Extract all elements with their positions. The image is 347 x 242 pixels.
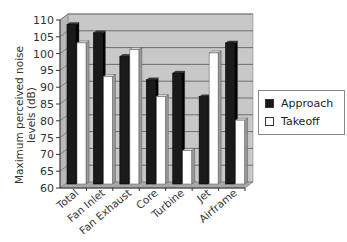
legend-label-approach: Approach <box>281 97 333 110</box>
y-tick-label: 65 <box>40 165 54 178</box>
y-tick-label: 110 <box>33 14 54 27</box>
legend-item-approach: Approach <box>265 97 333 110</box>
legend-item-takeoff: Takeoff <box>265 115 320 128</box>
y-tick-label: 60 <box>40 182 54 195</box>
y-tick-label: 70 <box>40 148 54 161</box>
y-tick-label: 80 <box>40 115 54 128</box>
approach-swatch-icon <box>265 99 274 108</box>
bar-takeoff-airframe <box>236 118 248 184</box>
y-tick-label: 90 <box>40 81 54 94</box>
legend-label-takeoff: Takeoff <box>281 115 320 128</box>
y-tick-label: 75 <box>40 132 54 145</box>
takeoff-swatch-icon <box>265 117 274 126</box>
bar-takeoff-total <box>77 41 89 184</box>
bar-takeoff-turbine <box>183 148 195 184</box>
y-axis-title: Maximum perceived noise levels (dB) <box>13 30 37 200</box>
bar-takeoff-core <box>156 95 168 184</box>
y-tick-label: 95 <box>40 64 54 77</box>
bar-takeoff-fan-exhaust <box>130 48 142 184</box>
bar-takeoff-fan-inlet <box>103 74 115 184</box>
bar-takeoff-jet <box>209 51 221 184</box>
legend: Approach Takeoff <box>258 90 345 135</box>
x-tick-label: Jet <box>194 186 213 205</box>
y-tick-label: 85 <box>40 98 54 111</box>
